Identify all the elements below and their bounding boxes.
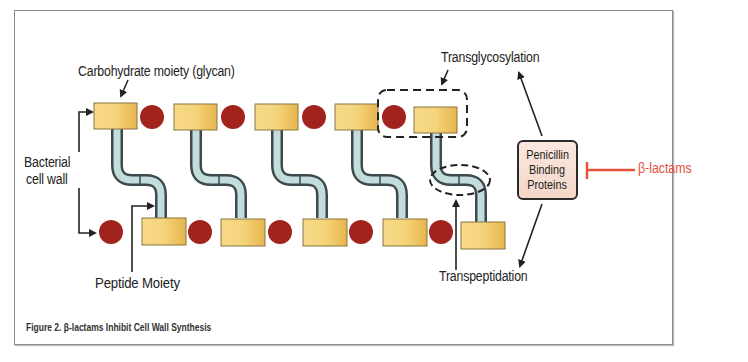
pbp-to-transpeptidation-arrow bbox=[520, 204, 542, 266]
carbohydrate-arrow bbox=[121, 80, 128, 96]
glycan-unit bbox=[461, 222, 505, 249]
crosslink-1 bbox=[117, 129, 161, 218]
transglycosylation-label: Transglycosylation bbox=[441, 49, 539, 65]
glycan-unit bbox=[414, 107, 457, 133]
pbp-label-3: Proteins bbox=[528, 178, 568, 193]
glycan-unit bbox=[255, 104, 298, 130]
carbohydrate-label: Carbohydrate moiety (glycan) bbox=[78, 63, 235, 79]
peptide-crosslinks bbox=[117, 129, 481, 222]
figure-caption: Figure 2. β-lactams Inhibit Cell Wall Sy… bbox=[26, 322, 211, 333]
peptide-circle bbox=[268, 220, 292, 244]
peptide-circle bbox=[429, 220, 453, 244]
penicillin-binding-proteins-box: Penicillin Binding Proteins bbox=[517, 140, 578, 200]
peptide-label: Peptide Moiety bbox=[95, 274, 180, 291]
glycan-unit bbox=[94, 103, 137, 129]
peptide-circle bbox=[188, 220, 212, 244]
pbp-to-transglycosylation-arrow bbox=[519, 73, 542, 136]
bacterial-wall-arrow-bottom bbox=[79, 188, 95, 233]
crosslink-3 bbox=[277, 129, 322, 218]
transpeptidation-label: Transpeptidation bbox=[439, 268, 528, 284]
bacterial-wall-label-1: Bacterial bbox=[24, 154, 70, 170]
peptide-circle bbox=[221, 105, 245, 129]
glycan-unit bbox=[142, 218, 186, 245]
glycan-unit bbox=[383, 219, 427, 246]
peptide-circle bbox=[349, 220, 373, 244]
crosslink-2 bbox=[196, 129, 241, 218]
crosslink-5 bbox=[436, 133, 481, 222]
pbp-label-1: Penicillin bbox=[526, 148, 569, 163]
crosslink-4 bbox=[357, 129, 402, 218]
glycan-unit bbox=[221, 219, 265, 246]
peptide-circle bbox=[382, 105, 406, 129]
cell-wall-diagram bbox=[0, 0, 748, 362]
glycan-unit bbox=[335, 104, 378, 130]
bacterial-wall-label-2: cell wall bbox=[26, 171, 68, 187]
peptide-circle bbox=[140, 105, 164, 129]
bacterial-wall-arrow-top bbox=[79, 112, 92, 152]
glycan-unit bbox=[174, 104, 217, 130]
inhibition-symbol bbox=[587, 162, 635, 179]
pbp-label-2: Binding bbox=[529, 163, 565, 178]
transglycosylation-arrow bbox=[442, 70, 448, 84]
peptide-circle bbox=[99, 220, 123, 244]
glycan-unit bbox=[303, 219, 347, 246]
beta-lactams-label: β-lactams bbox=[638, 160, 692, 176]
peptide-circle bbox=[302, 105, 326, 129]
